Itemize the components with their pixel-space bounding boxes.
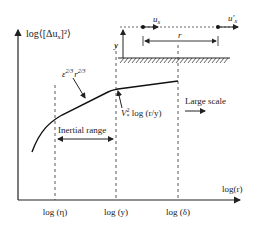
inset-ux-label: ux (153, 14, 161, 25)
log-annotation-arrow (118, 91, 122, 108)
inset-uxprime-label: u′x (228, 13, 237, 24)
tick-label-y: log (y) (104, 207, 128, 217)
log-law-label: V2* log (r/y) (121, 107, 162, 119)
structure-function-diagram: log⟨[Δux]²⟩ ε2/3r2/3 V2* log (r/y) Inert… (0, 0, 259, 227)
tick-label-eta: log (η) (43, 207, 67, 217)
large-scale-label: Large scale (185, 96, 226, 106)
y-axis-label: log⟨[Δux]²⟩ (26, 28, 71, 41)
inertial-range-label: Inertial range (58, 125, 106, 135)
inset-r-label: r (178, 30, 182, 40)
tick-label-delta: log (δ) (166, 207, 190, 217)
inertial-scaling-label: ε2/3r2/3 (62, 68, 85, 79)
x-axis-label: log(r) (222, 184, 243, 194)
inset-y-label: y (113, 40, 118, 50)
inertial-annotation-arrow (73, 78, 85, 98)
